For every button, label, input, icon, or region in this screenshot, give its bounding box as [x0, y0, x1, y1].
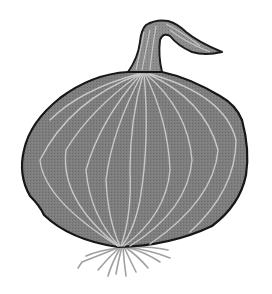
stem [128, 21, 222, 73]
onion-illustration: onion [0, 0, 272, 294]
onion-drawing [0, 0, 272, 294]
roots [78, 247, 170, 276]
